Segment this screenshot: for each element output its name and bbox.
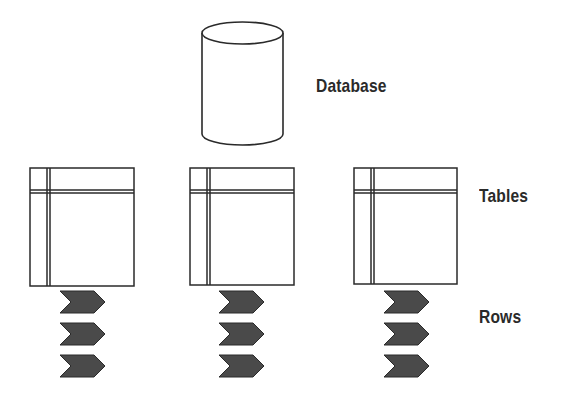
database-cylinder-icon bbox=[202, 22, 283, 145]
tables-label: Tables bbox=[479, 185, 528, 207]
rows-label: Rows bbox=[479, 306, 521, 328]
row-chevron-icon bbox=[384, 291, 429, 313]
row-chevrons-3 bbox=[384, 291, 429, 377]
row-chevron-icon bbox=[384, 355, 429, 377]
row-chevron-icon bbox=[219, 323, 264, 345]
row-chevrons-2 bbox=[219, 291, 264, 377]
database-label: Database bbox=[316, 75, 387, 97]
row-chevron-icon bbox=[219, 355, 264, 377]
row-chevrons-1 bbox=[60, 291, 105, 377]
row-chevron-icon bbox=[219, 291, 264, 313]
table-icon-1 bbox=[30, 168, 134, 286]
row-chevron-icon bbox=[60, 323, 105, 345]
table-icon-3 bbox=[354, 168, 457, 284]
row-chevron-icon bbox=[60, 291, 105, 313]
row-chevron-icon bbox=[384, 323, 429, 345]
table-icon-2 bbox=[190, 168, 294, 285]
row-chevron-icon bbox=[60, 355, 105, 377]
